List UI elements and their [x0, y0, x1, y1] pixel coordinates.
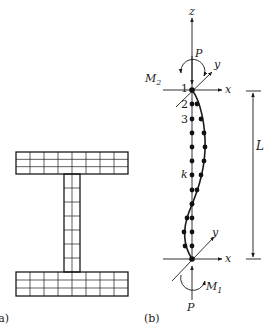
- deformed-node: [199, 173, 204, 178]
- z-axis-label: z: [188, 5, 195, 18]
- node-label: 1: [181, 82, 188, 95]
- node-label: k: [181, 168, 188, 181]
- undeformed-node: [190, 117, 195, 122]
- web: [64, 174, 80, 272]
- bottom-moment-label: M1: [205, 280, 222, 295]
- undeformed-node: [190, 244, 195, 249]
- undeformed-node: [190, 159, 195, 164]
- deformed-node: [202, 131, 207, 136]
- undeformed-node: [190, 188, 195, 193]
- node-label: 2: [181, 98, 188, 111]
- deformed-node: [190, 202, 195, 207]
- deformed-node: [195, 102, 200, 107]
- bottom-node: [189, 256, 195, 262]
- beam-column-model: [163, 18, 261, 300]
- undeformed-node: [190, 145, 195, 150]
- top-moment-arc-icon: [181, 59, 205, 76]
- deformed-node: [182, 230, 187, 235]
- bottom-flange: [16, 272, 128, 296]
- dimension-label: L: [255, 139, 264, 153]
- beam-column-figure: (a) 123k z x y P M2 x y: [0, 0, 271, 332]
- bottom-force-label: P: [186, 301, 195, 314]
- top-y-axis-label: y: [213, 58, 221, 71]
- deformed-node: [202, 159, 207, 164]
- deformed-node: [203, 145, 208, 150]
- undeformed-node: [190, 173, 195, 178]
- undeformed-node: [190, 216, 195, 221]
- undeformed-node: [190, 131, 195, 136]
- deformed-node: [195, 188, 200, 193]
- deformed-node: [183, 244, 188, 249]
- panel-a-label: (a): [0, 312, 9, 325]
- bottom-y-axis-label: y: [211, 226, 219, 239]
- top-x-axis-label: x: [225, 83, 232, 96]
- deformed-node: [199, 117, 204, 122]
- node-label: 3: [181, 113, 188, 126]
- top-flange: [16, 152, 128, 174]
- top-force-label: P: [194, 47, 203, 60]
- bottom-moment-arc-icon: [181, 275, 205, 290]
- deformed-node: [185, 216, 190, 221]
- top-node: [189, 87, 195, 93]
- undeformed-node: [190, 230, 195, 235]
- panel-b-label: (b): [144, 312, 160, 325]
- i-section-mesh: [16, 152, 128, 296]
- top-moment-label: M2: [144, 72, 161, 87]
- undeformed-node: [190, 102, 195, 107]
- bottom-x-axis-label: x: [225, 252, 232, 265]
